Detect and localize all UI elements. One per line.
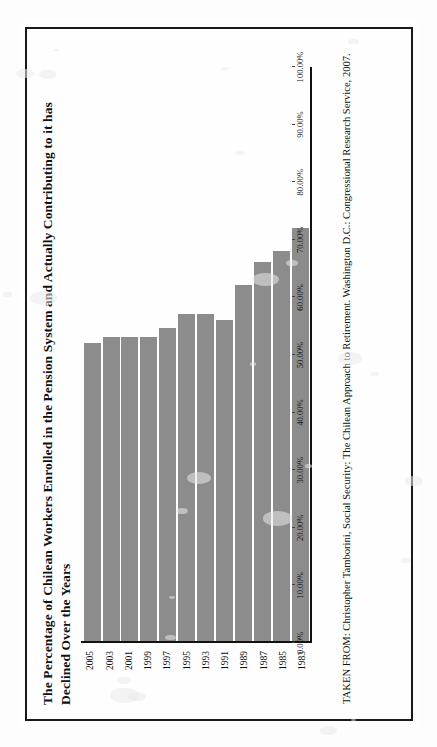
x-tick-mark xyxy=(291,642,294,643)
bar-row xyxy=(83,67,100,642)
bar-row xyxy=(272,67,289,642)
bar-row xyxy=(159,67,176,642)
source-citation: TAKEN FROM: Christopher Tamborini, Socia… xyxy=(339,44,353,704)
bar xyxy=(272,250,289,641)
category-label: 1989 xyxy=(239,651,249,670)
x-tick-label: 60.00% xyxy=(294,284,304,311)
bar xyxy=(253,262,270,641)
x-tick-mark xyxy=(291,411,294,412)
x-tick-mark xyxy=(291,584,294,585)
figure-frame: The Percentage of Chilean Workers Enroll… xyxy=(25,27,413,721)
x-tick-mark xyxy=(291,123,294,124)
chart-title: The Percentage of Chilean Workers Enroll… xyxy=(39,65,75,705)
category-label: 1997 xyxy=(162,651,172,670)
bar xyxy=(234,285,251,641)
category-label: 2005 xyxy=(85,651,95,670)
scan-speck xyxy=(250,362,256,365)
bar xyxy=(83,342,100,641)
scan-speck xyxy=(30,291,57,305)
x-tick-label: 100.00% xyxy=(294,51,304,82)
scan-speck xyxy=(401,558,410,563)
category-label: 1993 xyxy=(200,651,210,670)
scan-speck xyxy=(370,372,379,376)
scan-speck xyxy=(39,70,56,78)
category-label: 1995 xyxy=(181,651,191,670)
bar-row xyxy=(178,67,195,642)
bar xyxy=(140,337,157,641)
plot-inner: 0.00%10.00%20.00%30.00%40.00%50.00%60.00… xyxy=(80,67,311,643)
scan-speck xyxy=(16,69,34,78)
scan-speck xyxy=(236,151,244,155)
x-tick-mark xyxy=(291,469,294,470)
category-label: 1985 xyxy=(277,651,287,670)
x-tick-mark xyxy=(291,238,294,239)
x-tick-label: 50.00% xyxy=(294,341,304,368)
scan-speck xyxy=(320,726,337,734)
scan-speck xyxy=(3,292,12,297)
scan-speck xyxy=(263,511,292,526)
x-tick-mark xyxy=(291,66,294,67)
bar xyxy=(215,319,232,641)
x-tick-mark xyxy=(291,526,294,527)
scanned-page: The Percentage of Chilean Workers Enroll… xyxy=(0,0,437,747)
bar-row xyxy=(121,67,138,642)
x-tick-label: 0.00% xyxy=(294,631,304,653)
page-sheet: The Percentage of Chilean Workers Enroll… xyxy=(19,19,419,729)
bar-row xyxy=(140,67,157,642)
x-tick-label: 70.00% xyxy=(294,226,304,253)
bar xyxy=(159,328,176,641)
scan-speck xyxy=(221,67,227,70)
x-axis-tick-labels: 0.00%10.00%20.00%30.00%40.00%50.00%60.00… xyxy=(291,67,311,643)
bar xyxy=(121,337,138,641)
x-tick-label: 90.00% xyxy=(294,111,304,138)
x-tick-label: 10.00% xyxy=(294,572,304,599)
x-tick-mark xyxy=(291,354,294,355)
category-label: 1991 xyxy=(220,651,230,670)
bar-row xyxy=(253,67,270,642)
x-tick-label: 80.00% xyxy=(294,168,304,195)
category-label: 2003 xyxy=(104,651,114,670)
x-tick-mark xyxy=(291,181,294,182)
bar-row xyxy=(197,67,214,642)
scan-speck xyxy=(286,260,297,266)
category-label: 1999 xyxy=(143,651,153,670)
x-tick-label: 30.00% xyxy=(294,456,304,483)
scan-speck xyxy=(405,476,423,485)
x-tick-label: 20.00% xyxy=(294,514,304,541)
scan-speck xyxy=(351,719,355,721)
chart-plot-area: 2005200320011999199719951993199119891987… xyxy=(78,41,333,705)
category-label: 1987 xyxy=(258,651,268,670)
bar-row xyxy=(102,67,119,642)
bar-series xyxy=(80,67,311,642)
bar-row xyxy=(215,67,232,642)
scan-speck xyxy=(338,352,362,364)
scan-speck xyxy=(305,464,311,467)
x-tick-mark xyxy=(291,296,294,297)
category-label: 2001 xyxy=(123,651,133,670)
bar xyxy=(102,337,119,641)
x-tick-label: 40.00% xyxy=(294,399,304,426)
scan-speck xyxy=(169,596,175,599)
